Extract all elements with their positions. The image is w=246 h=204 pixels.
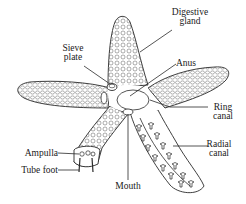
label-ring-canal: Ring canal <box>206 103 240 121</box>
label-mouth-text: Mouth <box>108 182 148 191</box>
arm-lower-left <box>74 106 128 172</box>
label-ring-canal-line2: canal <box>206 112 240 121</box>
label-tube-foot: Tube foot <box>6 166 58 175</box>
label-digestive-gland-line2: gland <box>162 17 218 26</box>
leader-digestive-gland <box>140 30 172 52</box>
leader-sieve-plate <box>84 66 110 84</box>
label-tube-foot-text: Tube foot <box>6 166 58 175</box>
label-anus-text: Anus <box>176 59 196 68</box>
label-sieve-plate-line2: plate <box>56 53 90 62</box>
label-radial-canal: Radial canal <box>196 140 242 158</box>
label-digestive-gland: Digestive gland <box>162 8 218 26</box>
starfish-anatomy-diagram: Digestive gland Sieve plate Anus Ring ca… <box>0 0 246 204</box>
label-ampulla: Ampulla <box>14 149 58 158</box>
label-ampulla-text: Ampulla <box>14 149 58 158</box>
arm-top <box>108 16 148 88</box>
label-mouth: Mouth <box>108 182 148 191</box>
arm-lower-right <box>130 110 204 193</box>
label-radial-canal-line2: canal <box>196 149 242 158</box>
label-anus: Anus <box>176 59 196 68</box>
arm-left <box>18 81 110 108</box>
label-sieve-plate: Sieve plate <box>56 44 90 62</box>
